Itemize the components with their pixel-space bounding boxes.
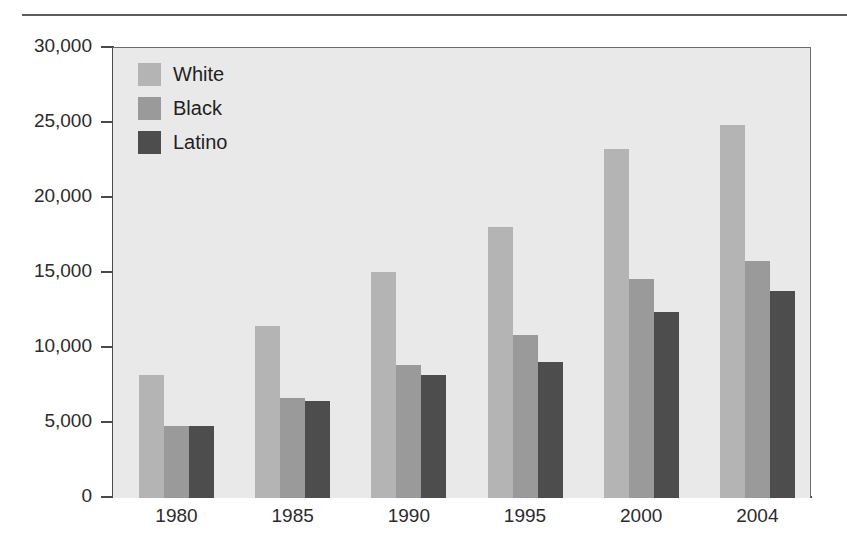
bar-white-1990	[371, 272, 396, 499]
y-axis-tick	[101, 346, 112, 348]
bar-white-1980	[139, 375, 164, 498]
bar-group	[604, 48, 679, 498]
y-axis-tick-label-text: 5,000	[44, 410, 92, 432]
bar-chart-figure: 05,00010,00015,00020,00025,00030,000 198…	[0, 0, 847, 549]
bar-black-2000	[629, 279, 654, 498]
y-axis-tick	[101, 46, 112, 48]
y-axis-tick	[101, 121, 112, 123]
legend-swatch-black	[138, 97, 161, 120]
legend-swatch-latino	[138, 131, 161, 154]
bar-latino-1985	[305, 401, 330, 499]
top-divider-rule	[22, 14, 847, 16]
bar-latino-1990	[421, 375, 446, 498]
legend-label-text: White	[173, 64, 224, 84]
legend-label-text: Black	[173, 98, 222, 118]
chart-legend: WhiteBlackLatino	[138, 57, 288, 159]
bar-group	[720, 48, 795, 498]
y-axis-tick-label-text: 30,000	[34, 35, 92, 57]
bar-group	[488, 48, 563, 498]
legend-label-text: Latino	[173, 132, 228, 152]
bar-black-1985	[280, 398, 305, 499]
legend-item-latino: Latino	[138, 125, 288, 159]
x-axis-tick-label: 2000	[591, 505, 691, 527]
bar-black-2004	[745, 261, 770, 498]
bar-white-2000	[604, 149, 629, 499]
bar-white-1985	[255, 326, 280, 499]
y-axis-tick-label-text: 25,000	[34, 110, 92, 132]
legend-swatch-white	[138, 63, 161, 86]
legend-item-white: White	[138, 57, 288, 91]
bar-black-1980	[164, 426, 189, 498]
bar-white-1995	[488, 227, 513, 499]
bar-latino-2000	[654, 312, 679, 498]
bar-latino-1995	[538, 362, 563, 499]
bar-latino-2004	[770, 291, 795, 498]
bar-latino-1980	[189, 426, 214, 498]
y-axis-tick	[101, 196, 112, 198]
y-axis-tick-label-text: 15,000	[34, 260, 92, 282]
x-axis-tick-label: 2004	[707, 505, 807, 527]
y-axis-tick	[101, 496, 112, 498]
x-axis-tick-label: 1990	[359, 505, 459, 527]
bar-black-1995	[513, 335, 538, 499]
y-axis-tick-label-text: 20,000	[34, 185, 92, 207]
bar-group	[371, 48, 446, 498]
x-axis-tick-label: 1995	[475, 505, 575, 527]
x-axis-tick-label: 1985	[243, 505, 343, 527]
bar-white-2004	[720, 125, 745, 499]
y-axis-tick	[101, 421, 112, 423]
x-axis-tick-label: 1980	[127, 505, 227, 527]
y-axis-tick-label-text: 10,000	[34, 335, 92, 357]
y-axis-tick	[101, 271, 112, 273]
legend-item-black: Black	[138, 91, 288, 125]
bar-black-1990	[396, 365, 421, 499]
y-axis-tick-label-text: 0	[81, 485, 92, 507]
